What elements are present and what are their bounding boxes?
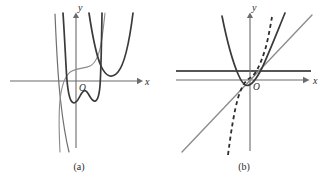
panel-b-caption: (b) [238, 161, 250, 173]
panel-a-y-axis-arrowhead [73, 13, 79, 19]
panel-a-caption: (a) [73, 161, 84, 173]
panel-b-y-axis-label: y [251, 2, 257, 13]
panel-a-x-axis-arrowhead [137, 78, 143, 84]
figure-canvas: x y O x y [0, 0, 326, 178]
panel-b-y-axis-arrowhead [247, 13, 253, 19]
figure-container: x y O x y [0, 0, 326, 178]
panel-b-tangent-line [182, 15, 312, 152]
panel-a-y-axis-label: y [77, 2, 83, 13]
panel-b: x y O [176, 2, 318, 155]
panel-b-x-axis-label: x [312, 75, 318, 86]
panel-b-origin-label: O [253, 82, 260, 92]
panel-a: x y O [10, 2, 150, 152]
panel-b-x-axis-arrowhead [303, 77, 310, 83]
panel-a-curve-parabola-right [89, 13, 133, 76]
panel-a-x-axis-label: x [144, 76, 150, 87]
